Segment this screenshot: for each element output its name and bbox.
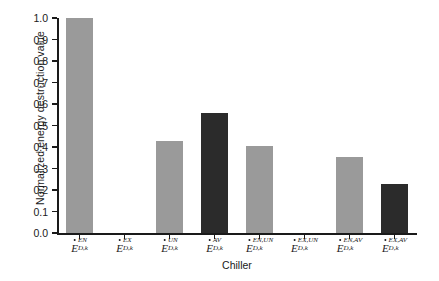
y-tick-label: 0.5 — [22, 121, 48, 131]
bar — [336, 157, 363, 233]
x-tick-label: EEND,k — [71, 240, 88, 254]
x-tick-label: EEXD,k — [116, 240, 133, 254]
y-tick-label: 0.6 — [22, 99, 48, 109]
y-tick-label: 0.9 — [22, 35, 48, 45]
x-tick-label: EEX,UND,k — [291, 240, 318, 254]
y-tick-label: 0.7 — [22, 78, 48, 88]
x-tick-label: EEX,AVD,k — [382, 240, 407, 254]
chart-figure: Normalized energy destruction value 0.00… — [0, 0, 439, 281]
bar — [66, 18, 93, 233]
x-tick-label: EUND,k — [161, 240, 178, 254]
x-axis-title: Chiller — [57, 259, 417, 271]
y-tick-label: 1.0 — [22, 13, 48, 23]
x-tick-label: EEN,UND,k — [246, 240, 273, 254]
y-tick-label: 0.4 — [22, 142, 48, 152]
bar — [201, 113, 228, 233]
y-tick-label: 0.0 — [22, 228, 48, 238]
y-tick-label: 0.8 — [22, 56, 48, 66]
bar — [381, 184, 408, 233]
y-tick-label: 0.2 — [22, 185, 48, 195]
y-tick-label: 0.3 — [22, 164, 48, 174]
x-tick-label: EAVD,k — [206, 240, 223, 254]
x-tick-label: EEN,AVD,k — [337, 240, 363, 254]
plot-area: 0.00.10.20.30.40.50.60.70.80.91.0 EEND,k… — [57, 18, 417, 233]
x-axis-line — [57, 233, 417, 235]
bar — [156, 141, 183, 233]
bar-group — [57, 18, 417, 233]
bar — [246, 146, 273, 233]
y-tick-label: 0.1 — [22, 207, 48, 217]
